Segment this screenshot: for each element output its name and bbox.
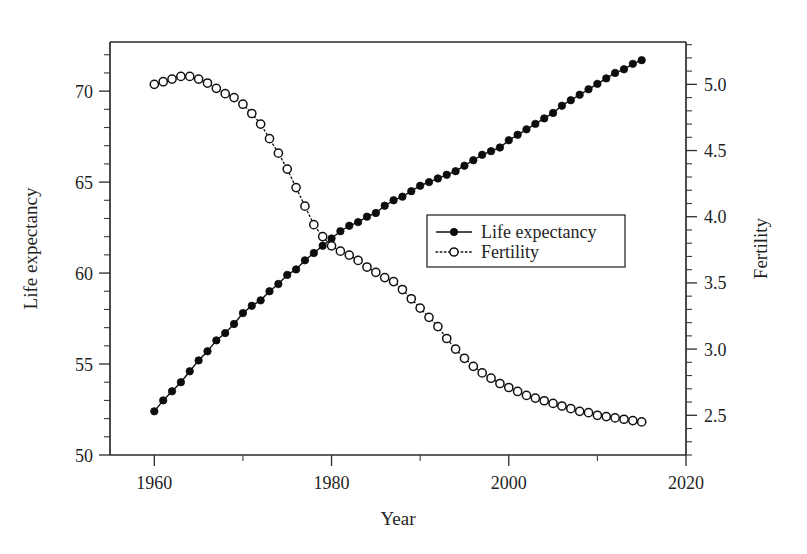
data-point-marker (514, 387, 522, 395)
data-point-marker (248, 109, 256, 117)
data-point-marker (496, 379, 504, 387)
y-axis-right-title: Fertility (750, 217, 771, 279)
data-point-marker (381, 202, 388, 209)
data-point-marker (549, 109, 556, 116)
data-point-marker (346, 222, 353, 229)
data-point-marker (576, 407, 584, 415)
data-point-marker (275, 280, 282, 287)
data-point-marker (265, 135, 273, 143)
data-point-marker (611, 414, 619, 422)
y-axis-right-tick-label: 2.5 (704, 406, 727, 426)
data-point-marker (558, 402, 566, 410)
data-point-marker (337, 228, 344, 235)
data-point-marker (540, 397, 548, 405)
data-point-marker (151, 408, 158, 415)
data-point-marker (629, 60, 636, 67)
legend-label: Life expectancy (481, 222, 596, 242)
data-point-marker (567, 97, 574, 104)
data-point-marker (221, 90, 229, 98)
data-point-marker (327, 242, 335, 250)
data-point-marker (478, 369, 486, 377)
chart-figure: 5055606570Life expectancy2.53.03.54.04.5… (0, 0, 807, 554)
data-point-marker (372, 268, 380, 276)
data-point-marker (611, 69, 618, 76)
data-point-marker (266, 288, 273, 295)
data-point-marker (638, 56, 645, 63)
y-axis-left-title: Life expectancy (20, 187, 41, 309)
data-point-marker (593, 411, 601, 419)
data-point-marker (416, 182, 423, 189)
data-point-marker (496, 144, 503, 151)
data-point-marker (585, 86, 592, 93)
data-point-marker (584, 409, 592, 417)
data-point-marker (522, 391, 530, 399)
data-point-marker (443, 171, 450, 178)
y-axis-right-tick-label: 3.5 (704, 273, 727, 293)
data-point-marker (284, 271, 291, 278)
data-point-marker (620, 66, 627, 73)
data-point-marker (389, 277, 397, 285)
data-point-marker (345, 251, 353, 259)
data-point-marker (213, 337, 220, 344)
data-point-marker (363, 213, 370, 220)
data-point-marker (186, 72, 194, 80)
data-point-marker (354, 256, 362, 264)
data-point-marker (469, 362, 477, 370)
data-point-marker (168, 388, 175, 395)
x-axis-tick-label: 2020 (668, 473, 704, 493)
y-axis-left-tick-label: 55 (75, 355, 93, 375)
data-point-marker (274, 149, 282, 157)
data-point-marker (150, 80, 158, 88)
data-point-marker (425, 313, 433, 321)
data-point-marker (381, 274, 389, 282)
data-point-marker (204, 348, 211, 355)
legend-sample-marker (450, 228, 457, 235)
y-axis-left-tick-label: 60 (75, 264, 93, 284)
data-point-marker (532, 120, 539, 127)
data-point-marker (239, 309, 246, 316)
data-point-marker (310, 249, 317, 256)
data-point-marker (487, 374, 495, 382)
data-point-marker (434, 323, 442, 331)
data-point-marker (257, 120, 265, 128)
data-point-marker (177, 379, 184, 386)
data-point-marker (416, 304, 424, 312)
data-point-marker (629, 416, 637, 424)
data-point-marker (159, 78, 167, 86)
data-point-marker (390, 197, 397, 204)
dual-axis-line-chart: 5055606570Life expectancy2.53.03.54.04.5… (0, 0, 807, 554)
data-point-marker (195, 357, 202, 364)
data-point-marker (452, 167, 459, 174)
y-axis-left-tick-label: 50 (75, 446, 93, 466)
data-point-marker (470, 157, 477, 164)
data-point-marker (638, 418, 646, 426)
y-axis-right-tick-label: 5.0 (704, 75, 727, 95)
data-point-marker (434, 175, 441, 182)
y-axis-right-tick-label: 3.0 (704, 340, 727, 360)
data-point-marker (487, 147, 494, 154)
data-point-marker (594, 80, 601, 87)
y-axis-left-tick-label: 65 (75, 173, 93, 193)
data-point-marker (212, 84, 220, 92)
data-point-marker (505, 137, 512, 144)
data-point-marker (549, 399, 557, 407)
data-point-marker (398, 285, 406, 293)
x-axis-tick-label: 1960 (136, 473, 172, 493)
data-point-marker (407, 295, 415, 303)
data-point-marker (336, 247, 344, 255)
data-point-marker (372, 209, 379, 216)
data-point-marker (168, 75, 176, 83)
data-point-marker (363, 263, 371, 271)
data-point-marker (603, 75, 610, 82)
data-point-marker (195, 75, 203, 83)
data-point-marker (558, 102, 565, 109)
data-point-marker (177, 72, 185, 80)
y-axis-right-tick-label: 4.5 (704, 141, 727, 161)
chart-legend: Life expectancyFertility (427, 215, 625, 267)
data-point-marker (514, 131, 521, 138)
data-point-marker (354, 218, 361, 225)
y-axis-left-tick-label: 70 (75, 82, 93, 102)
data-point-marker (159, 397, 166, 404)
data-point-marker (248, 302, 255, 309)
data-point-marker (576, 91, 583, 98)
